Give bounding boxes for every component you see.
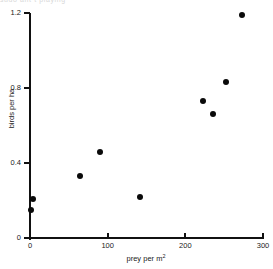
x-tick-label: 0	[18, 242, 42, 250]
y-tick-label: 0.4	[1, 159, 21, 167]
y-tick-label: 0	[1, 234, 21, 242]
y-tick-label: 1.2	[1, 9, 21, 17]
x-tick-mark	[262, 233, 264, 239]
data-point	[30, 196, 36, 202]
x-tick-mark	[184, 233, 186, 239]
scatter-plot-figure: sudo ant t piaying 00.40.81.2 0100200300…	[0, 0, 273, 269]
x-tick-label: 200	[173, 242, 197, 250]
x-tick-label: 300	[251, 242, 273, 250]
x-tick-mark	[107, 233, 109, 239]
x-axis-line	[29, 237, 263, 239]
y-axis-line	[29, 13, 31, 240]
y-tick-mark	[24, 87, 30, 89]
y-tick-mark	[24, 162, 30, 164]
data-point	[77, 173, 83, 179]
data-point	[223, 79, 229, 85]
plot-area: 00.40.81.2 0100200300 birds per ha prey …	[0, 0, 273, 269]
y-axis-title: birds per ha	[7, 81, 16, 137]
data-point	[97, 149, 103, 155]
data-point	[137, 194, 143, 200]
y-tick-mark	[24, 12, 30, 14]
x-axis-title-text: prey per m	[127, 254, 163, 263]
x-axis-title-superscript: 2	[162, 253, 165, 259]
data-point	[28, 207, 34, 213]
x-axis-title: prey per m2	[29, 254, 263, 263]
data-point	[200, 98, 206, 104]
data-point	[239, 12, 245, 18]
x-tick-label: 100	[96, 242, 120, 250]
x-tick-mark	[29, 233, 31, 239]
data-point	[210, 111, 216, 117]
